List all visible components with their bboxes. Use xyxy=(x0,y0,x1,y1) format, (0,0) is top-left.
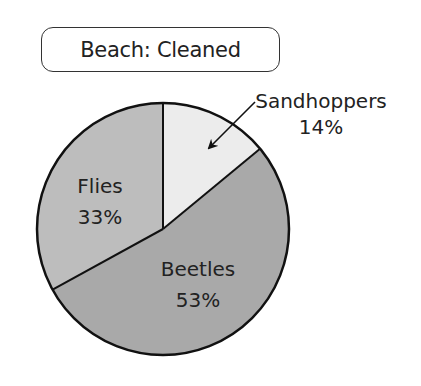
label-sandhoppers-value: 14% xyxy=(299,115,343,139)
label-flies-value: 33% xyxy=(78,205,122,229)
label-sandhoppers-name: Sandhoppers xyxy=(255,89,387,113)
label-flies-name: Flies xyxy=(77,174,122,198)
pie-chart: Sandhoppers 14% Flies 33% Beetles 53% xyxy=(0,0,421,386)
label-beetles-name: Beetles xyxy=(161,257,235,281)
label-beetles-value: 53% xyxy=(176,288,220,312)
pie-slices xyxy=(37,103,289,355)
